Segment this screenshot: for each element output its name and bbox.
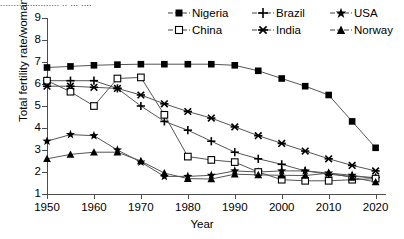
y-tick-label: 1 [23,188,41,199]
fertility-rate-line-chart: ...................... .. ... .... Total… [0,0,404,239]
data-point [278,140,286,147]
open-square-icon [168,24,190,36]
data-point [231,124,239,131]
data-point [254,155,262,163]
legend-row-1: Nigeria Brazil USA [168,4,400,21]
legend-label: India [274,24,301,36]
data-point [44,64,51,71]
data-point [254,132,262,139]
x-tick-label: 1960 [74,201,114,213]
data-point [207,137,215,145]
legend-item-india[interactable]: India [252,24,330,36]
data-point [325,92,332,99]
legend-item-brazil[interactable]: Brazil [252,7,330,19]
data-point [91,103,98,110]
data-point [255,68,262,75]
data-point [138,74,145,81]
x-tick [376,194,377,199]
legend-label: Norway [352,24,393,36]
legend-item-usa[interactable]: USA [330,7,400,19]
x-tick [94,194,95,199]
x-tick-label: 1970 [121,201,161,213]
filled-square-icon [168,7,190,19]
x-tick [235,194,236,199]
y-tick-label: 6 [23,78,41,89]
x-tick-label: 1950 [27,201,67,213]
data-point [348,162,356,169]
x-tick [282,194,283,199]
data-point [160,169,168,176]
data-point [90,84,98,91]
plus-icon [252,7,274,19]
legend-label: China [190,24,222,36]
data-point [349,118,356,125]
data-point [185,153,192,160]
data-point [278,75,285,82]
x-tick-label: 2000 [262,201,302,213]
legend-label: Nigeria [190,7,228,19]
data-point [137,92,145,99]
data-point [160,101,168,108]
legend-label: USA [352,7,378,19]
legend-item-nigeria[interactable]: Nigeria [168,7,252,19]
x-tick-label: 2020 [356,201,396,213]
data-point [114,75,121,82]
plot-area: 123456789 195019601970198019902000201020… [47,18,385,194]
data-point [89,131,98,140]
data-point [114,61,121,68]
x-tick [188,194,189,199]
data-point [161,61,168,68]
series-layer [47,18,385,194]
data-point [185,61,192,68]
x-axis-title: Year [0,218,404,230]
data-point [372,168,380,175]
data-point [372,145,379,152]
data-point [208,61,215,68]
data-point [325,178,332,185]
y-tick-label: 8 [23,34,41,45]
y-tick-label: 2 [23,166,41,177]
y-tick-label: 3 [23,144,41,155]
filled-star-icon [330,7,352,19]
legend-label: Brazil [274,7,305,19]
legend-item-norway[interactable]: Norway [330,24,400,36]
legend-item-china[interactable]: China [168,24,252,36]
data-point [161,112,168,119]
x-axis-line [47,194,386,195]
x-tick-label: 1990 [215,201,255,213]
data-point [137,102,145,110]
data-point [325,156,333,163]
cross-star-icon [252,24,274,36]
y-tick-label: 7 [23,56,41,67]
legend: Nigeria Brazil USA [168,4,400,40]
data-point [207,115,215,122]
data-point [42,136,51,145]
filled-triangle-icon [330,24,352,36]
x-tick-label: 2010 [309,201,349,213]
y-tick-label: 4 [23,122,41,133]
data-point [138,61,145,68]
y-tick-label: 5 [23,100,41,111]
data-point [184,108,192,115]
data-point [302,83,309,90]
x-tick [47,194,48,199]
data-point [67,63,74,70]
data-point [66,130,75,139]
legend-row-2: China India Norway [168,21,400,38]
x-tick [141,194,142,199]
series-china [44,74,379,184]
data-point [208,157,215,164]
y-tick-label: 9 [23,12,41,23]
data-point [301,148,309,155]
data-point [231,62,238,69]
x-tick [329,194,330,199]
x-tick-label: 1980 [168,201,208,213]
data-point [184,126,192,134]
data-point [91,62,98,69]
data-point [231,148,239,156]
data-point [231,159,238,166]
